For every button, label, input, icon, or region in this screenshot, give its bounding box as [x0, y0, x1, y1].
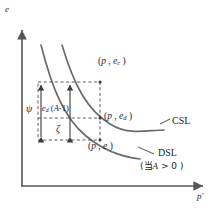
pt-e-base: p	[91, 141, 96, 151]
diagram-canvas	[0, 0, 221, 210]
csl-leader	[160, 119, 170, 124]
x-axis-label: p'	[197, 192, 203, 201]
pt-ec-sub: c	[117, 59, 120, 66]
zeta-symbol-label: ζ	[56, 124, 60, 134]
dsl-note-symbol: A	[153, 161, 159, 171]
economics-diagram: e p' CSL DSL (当A > 0 ) (p , ec ) (p , ed…	[0, 0, 221, 210]
point-label-ec: (p , ec )	[98, 57, 126, 67]
annot-sub: d	[46, 107, 49, 113]
dsl-leader	[138, 147, 154, 154]
annot-tail: (A-1)	[51, 103, 69, 113]
point-label-e: (p , e )	[88, 142, 113, 152]
dsl-condition-note: (当A > 0 )	[140, 162, 183, 171]
dsl-curve-label: DSL	[158, 148, 177, 158]
annot-tail-var: A	[54, 103, 59, 113]
point-label-ed: (p , ed )	[104, 112, 132, 122]
pt-e-value: e	[103, 141, 107, 151]
dsl-note-suffix: > 0	[161, 161, 177, 171]
csl-curve-label: CSL	[172, 116, 190, 126]
dsl-note-prefix: 当	[144, 161, 153, 171]
pt-ec-base: p	[101, 56, 106, 66]
marker-point-ed	[99, 117, 102, 120]
psi-symbol-label: ψ	[26, 104, 32, 114]
pt-ed-base: p	[107, 111, 112, 121]
dsl-note-close: )	[180, 161, 184, 171]
ed-a-minus-1-annotation: ed (A-1)	[42, 104, 69, 114]
pt-ed-sub: d	[123, 114, 126, 121]
y-axis-label: e	[5, 5, 9, 14]
marker-point-ec	[99, 81, 102, 84]
